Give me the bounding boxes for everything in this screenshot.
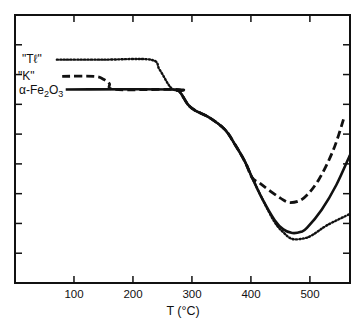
label-k: "K"	[18, 69, 35, 83]
chart-canvas	[0, 0, 363, 327]
label-tl: "Tℓ"	[22, 52, 42, 66]
x-tick-label-300: 300	[182, 288, 201, 300]
series-line-dashed	[62, 76, 344, 202]
label-fe2o3-sub2: 3	[58, 89, 63, 99]
x-tick-label-500: 500	[300, 288, 319, 300]
x-tick-label-400: 400	[241, 288, 260, 300]
label-fe2o3-part1: α-Fe	[19, 83, 44, 97]
x-axis-label: T (°C)	[166, 304, 199, 318]
series-line-solid	[66, 89, 350, 233]
series-line-dotted	[57, 59, 350, 239]
x-tick-label-200: 200	[123, 288, 142, 300]
plot-frame	[15, 15, 350, 283]
label-fe2o3-part2: O	[49, 83, 58, 97]
x-tick-label-100: 100	[64, 288, 83, 300]
label-fe2o3: α-Fe2O3	[19, 83, 63, 99]
